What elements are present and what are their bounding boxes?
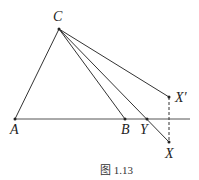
segment-ca [15,29,59,119]
label-x: X [164,146,174,161]
label-c: C [53,9,63,24]
segment-cb [59,29,125,119]
point-y [146,118,149,121]
point-a [14,118,17,121]
point-c [58,28,61,31]
figure-caption: 图 1.13 [100,164,134,176]
label-y: Y [140,122,150,137]
segment-cx [59,29,169,142]
segment-cxprime [59,29,169,97]
point-x [168,141,171,144]
point-b [124,118,127,121]
geometry-figure: C A B Y X′ X 图 1.13 [0,0,199,180]
label-a: A [9,122,19,137]
point-xprime [168,96,171,99]
label-xprime: X′ [174,90,188,105]
label-b: B [121,122,130,137]
